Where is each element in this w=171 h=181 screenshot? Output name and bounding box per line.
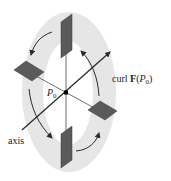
curl-paddle-wheel-diagram: curl F(P0) P0 axis: [0, 0, 171, 181]
curl-label: curl F(P0): [112, 73, 152, 86]
paddle-top: [61, 14, 72, 58]
axis-label: axis: [8, 135, 24, 146]
center-point-P0: [64, 91, 68, 95]
